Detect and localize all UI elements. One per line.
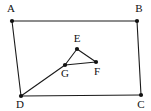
edge-DG	[21, 65, 65, 96]
vertex-label-g: G	[61, 67, 69, 79]
vertex-dot-c	[139, 93, 143, 97]
geometry-canvas: ABCDEFG	[0, 0, 151, 111]
vertex-dot-b	[135, 19, 139, 23]
vertex-label-e: E	[74, 32, 81, 44]
vertex-dots-group	[10, 19, 143, 98]
vertex-label-a: A	[7, 2, 15, 14]
vertex-label-b: B	[135, 2, 142, 14]
vertex-dot-f	[94, 60, 98, 64]
edge-BC	[137, 21, 141, 95]
vertex-dot-e	[75, 47, 79, 51]
edge-CD	[21, 95, 141, 96]
geometry-figure: ABCDEFG	[0, 0, 151, 111]
vertex-label-f: F	[94, 65, 100, 77]
edge-EF	[77, 49, 96, 62]
edge-FG	[65, 62, 96, 65]
vertex-dot-a	[10, 19, 14, 23]
vertex-label-c: C	[137, 98, 144, 110]
vertex-label-d: D	[16, 98, 24, 110]
edge-GE	[65, 49, 77, 65]
vertex-labels-group: ABCDEFG	[7, 2, 145, 110]
edge-DA	[12, 21, 21, 96]
